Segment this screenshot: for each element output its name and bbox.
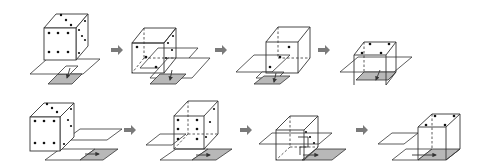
sequence-arrow-icon xyxy=(240,125,252,135)
bottom-step-1 xyxy=(30,103,122,160)
top-step-1 xyxy=(30,14,100,84)
sequence-arrow-icon xyxy=(124,125,136,135)
top-step-2 xyxy=(132,28,210,84)
bottom-step-4 xyxy=(378,114,460,160)
sequence-arrow-icon xyxy=(215,45,227,55)
sequence-arrow-icon xyxy=(356,125,368,135)
sequence-arrow-icon xyxy=(318,45,330,55)
top-face-four-pips xyxy=(361,43,391,55)
sequence-arrow-icon xyxy=(111,45,123,55)
bottom-step-2 xyxy=(146,101,232,160)
bottom-step-3 xyxy=(259,116,346,160)
dice-rolling-diagram xyxy=(0,0,492,168)
top-step-3 xyxy=(236,27,310,84)
top-step-4 xyxy=(340,42,412,85)
